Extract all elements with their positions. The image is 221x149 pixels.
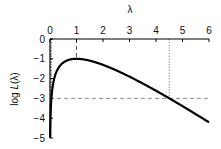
x-tick-label: 0	[47, 25, 53, 36]
log-likelihood-chart: 01234560−1−2−3−4−5 λ log L(λ)	[0, 0, 221, 149]
y-tick-label: −1	[34, 53, 46, 64]
x-tick-label: 1	[74, 25, 80, 36]
y-tick-label: −2	[34, 73, 46, 84]
axes: 01234560−1−2−3−4−5	[34, 25, 213, 144]
x-tick-label: 2	[100, 25, 106, 36]
y-tick-label: 0	[39, 34, 45, 45]
x-tick-label: 3	[127, 25, 133, 36]
y-tick-label: −5	[34, 133, 46, 144]
x-axis-label: λ	[128, 4, 133, 15]
reference-lines	[50, 39, 209, 98]
x-tick-label: 6	[206, 25, 212, 36]
x-tick-label: 4	[153, 25, 159, 36]
y-axis-label: log L(λ)	[9, 72, 20, 105]
x-tick-label: 5	[180, 25, 186, 36]
y-tick-label: −4	[34, 113, 46, 124]
y-tick-label: −3	[34, 93, 46, 104]
